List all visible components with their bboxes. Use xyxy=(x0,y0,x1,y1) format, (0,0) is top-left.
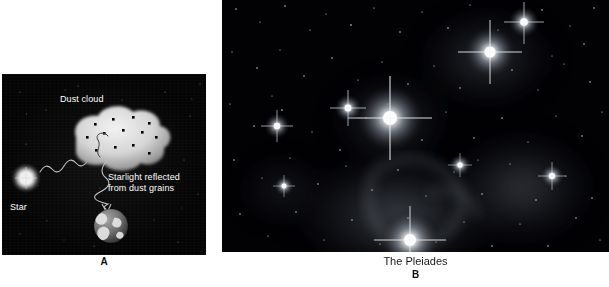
panel-a-diagram-svg xyxy=(2,74,206,255)
light-ray-cloud-to-earth xyxy=(95,162,109,209)
pleiades-svg xyxy=(222,0,609,252)
star-object xyxy=(10,162,42,194)
pleiades-photograph xyxy=(222,0,609,252)
label-starlight-line1: Starlight reflected xyxy=(108,172,180,182)
label-dust-cloud: Dust cloud xyxy=(60,94,104,105)
label-starlight-reflected: Starlight reflected from dust grains xyxy=(108,172,180,194)
panel-a-illustration: Dust cloud Star Starlight reflected from… xyxy=(2,74,206,255)
panel-b-letter: B xyxy=(222,269,609,280)
dust-cloud-object xyxy=(75,106,170,170)
panel-a-figure: Dust cloud Star Starlight reflected from… xyxy=(0,70,210,287)
label-starlight-line2: from dust grains xyxy=(108,183,174,193)
panel-b-figure: The Pleiades B xyxy=(222,0,609,287)
label-star: Star xyxy=(10,202,27,213)
earth-object xyxy=(94,209,128,243)
panel-a-letter: A xyxy=(0,256,208,267)
panel-b-caption: The Pleiades xyxy=(222,255,609,267)
